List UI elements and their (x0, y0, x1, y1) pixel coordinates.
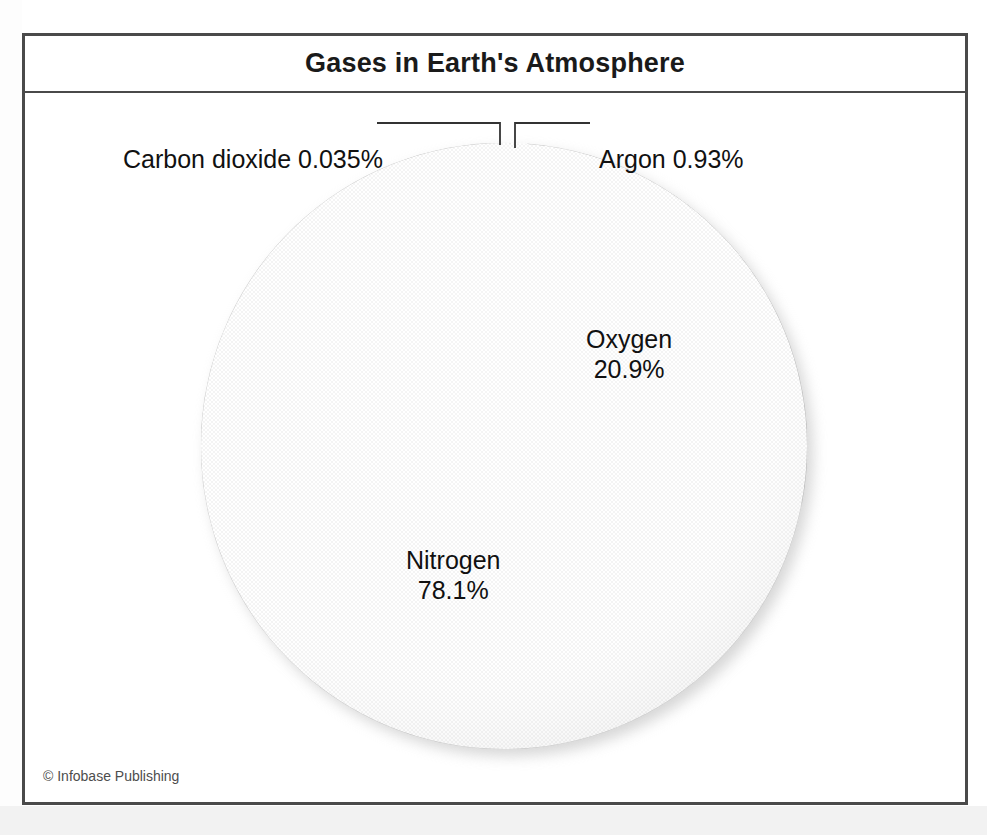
plot-area: Carbon dioxide 0.035% Argon 0.93% Oxygen… (25, 93, 965, 802)
page-title: Gases in Earth's Atmosphere (305, 48, 685, 79)
copyright-credit: © Infobase Publishing (43, 768, 179, 784)
pie-chart (201, 143, 807, 749)
slice-label-nitrogen-value: 78.1% (406, 576, 501, 606)
pie-sheen-overlay (201, 143, 807, 749)
slice-label-oxygen-value: 20.9% (586, 355, 672, 385)
pie-slices (201, 143, 807, 749)
leader-line-carbon-dioxide (377, 123, 500, 145)
callout-label-carbon-dioxide: Carbon dioxide 0.035% (123, 145, 383, 174)
title-bar: Gases in Earth's Atmosphere (25, 36, 965, 93)
slice-label-nitrogen: Nitrogen 78.1% (406, 546, 501, 605)
slice-label-oxygen-name: Oxygen (586, 325, 672, 355)
callout-label-argon: Argon 0.93% (599, 145, 744, 174)
page-bottom-margin (0, 806, 987, 835)
slice-label-nitrogen-name: Nitrogen (406, 546, 501, 576)
slice-label-oxygen: Oxygen 20.9% (586, 325, 672, 384)
figure-frame: Gases in Earth's Atmosphere (22, 33, 968, 805)
page-left-margin (0, 0, 22, 835)
